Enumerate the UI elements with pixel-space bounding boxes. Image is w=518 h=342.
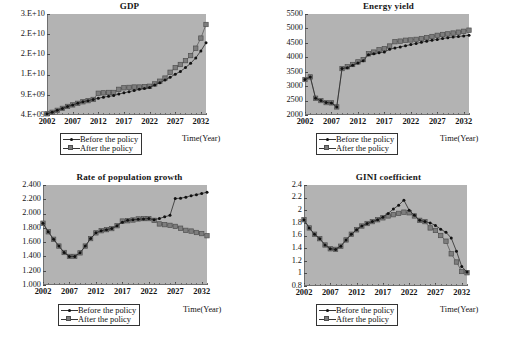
square-marker-icon <box>188 53 192 57</box>
dot-marker-icon <box>63 251 66 254</box>
dot-marker-icon <box>413 214 416 217</box>
series-after-the-policy-line <box>47 24 206 113</box>
dot-marker-icon <box>452 36 455 39</box>
dot-marker-icon <box>142 217 145 220</box>
square-marker-icon <box>319 144 336 153</box>
dot-marker-icon <box>439 228 442 231</box>
square-marker-icon <box>396 211 400 215</box>
dot-marker-icon <box>168 214 171 217</box>
chart-legend: Before the policyAfter the policy <box>316 133 398 155</box>
dot-marker-icon <box>61 107 64 110</box>
square-marker-icon <box>63 144 80 153</box>
legend-item-before: Before the policy <box>61 306 136 315</box>
square-marker-icon <box>449 252 453 256</box>
dot-marker-icon <box>84 245 87 248</box>
dot-marker-icon <box>434 224 437 227</box>
legend-label: Before the policy <box>80 135 138 144</box>
square-marker-icon <box>132 85 136 89</box>
dot-marker-icon <box>339 245 342 248</box>
dot-marker-icon <box>174 197 177 200</box>
chart-panel-gdp: GDP 3.E+102.E+102.E+101.E+109.E+094.E+09… <box>0 0 259 171</box>
square-marker-icon <box>433 228 437 232</box>
square-marker-icon <box>200 231 204 235</box>
legend-label: Before the policy <box>78 306 136 315</box>
dot-marker-icon <box>425 40 428 43</box>
dot-marker-icon <box>137 218 140 221</box>
legend-label: After the policy <box>336 144 389 153</box>
series-after-the-policy-line <box>305 30 469 107</box>
dot-marker-icon <box>92 98 95 101</box>
square-marker-icon <box>199 36 203 40</box>
dot-marker-icon <box>318 237 321 240</box>
dot-marker-icon <box>466 271 469 274</box>
dot-marker-icon <box>345 238 348 241</box>
square-marker-icon <box>440 32 444 36</box>
dot-marker-icon <box>163 79 166 82</box>
dot-marker-icon <box>61 306 78 315</box>
dot-marker-icon <box>158 81 161 84</box>
dot-marker-icon <box>355 228 358 231</box>
legend-item-after: After the policy <box>319 315 394 324</box>
dot-marker-icon <box>460 265 463 268</box>
square-marker-icon <box>428 226 432 230</box>
dot-marker-icon <box>468 34 471 37</box>
legend-item-after: After the policy <box>61 315 136 324</box>
dot-marker-icon <box>131 218 134 221</box>
square-marker-icon <box>424 35 428 39</box>
dot-marker-icon <box>304 78 307 81</box>
series-after-the-policy-line <box>43 219 207 257</box>
dot-marker-icon <box>388 48 391 51</box>
dot-marker-icon <box>206 191 209 194</box>
dot-marker-icon <box>387 212 390 215</box>
dot-marker-icon <box>429 221 432 224</box>
legend-label: Before the policy <box>336 306 394 315</box>
dot-marker-icon <box>153 84 156 87</box>
dot-marker-icon <box>184 66 187 69</box>
square-marker-icon <box>444 239 448 243</box>
dot-marker-icon <box>117 93 120 96</box>
dot-marker-icon <box>367 53 370 56</box>
chart-legend: Before the policyAfter the policy <box>316 304 398 326</box>
square-marker-icon <box>456 30 460 34</box>
dot-marker-icon <box>158 217 161 220</box>
square-marker-icon <box>403 38 407 42</box>
dot-marker-icon <box>128 90 131 93</box>
square-marker-icon <box>183 58 187 62</box>
dot-marker-icon <box>153 218 156 221</box>
dot-marker-icon <box>200 192 203 195</box>
square-marker-icon <box>446 32 450 36</box>
x-axis-title: Time(Year) <box>183 305 221 314</box>
square-marker-icon <box>398 39 402 43</box>
square-marker-icon <box>460 269 464 273</box>
square-marker-icon <box>435 33 439 37</box>
chart-panel-energy-yield: Energy yield 550050004500400035003000250… <box>259 0 518 171</box>
square-marker-icon <box>454 260 458 264</box>
dot-marker-icon <box>76 102 79 105</box>
dot-marker-icon <box>147 217 150 220</box>
square-marker-icon <box>168 223 172 227</box>
square-marker-icon <box>430 34 434 38</box>
dot-marker-icon <box>381 216 384 219</box>
square-marker-icon <box>162 222 166 226</box>
chart-legend: Before the policyAfter the policy <box>60 133 142 155</box>
dot-marker-icon <box>102 96 105 99</box>
dot-marker-icon <box>430 39 433 42</box>
dot-marker-icon <box>107 95 110 98</box>
x-axis-title: Time(Year) <box>182 134 220 143</box>
dot-marker-icon <box>94 231 97 234</box>
square-marker-icon <box>451 31 455 35</box>
dot-marker-icon <box>52 238 55 241</box>
legend-item-after: After the policy <box>319 144 394 153</box>
dot-marker-icon <box>163 215 166 218</box>
legend-label: After the policy <box>78 315 131 324</box>
legend-item-after: After the policy <box>63 144 138 153</box>
dot-marker-icon <box>51 111 54 114</box>
square-marker-icon <box>319 315 336 324</box>
legend-label: After the policy <box>336 315 389 324</box>
dot-marker-icon <box>441 37 444 40</box>
square-marker-icon <box>194 230 198 234</box>
series-after-the-policy-line <box>304 212 467 273</box>
dot-marker-icon <box>71 103 74 106</box>
dot-marker-icon <box>205 41 208 44</box>
square-marker-icon <box>101 91 105 95</box>
